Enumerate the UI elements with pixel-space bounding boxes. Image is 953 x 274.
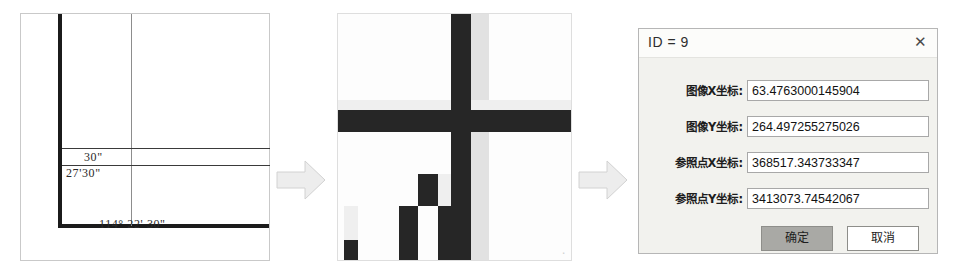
zoom-watermark: ▫	[563, 250, 565, 256]
dialog-body: 图像X坐标: 图像Y坐标: 参照点X坐标: 参照点Y坐标: 确定 取消	[639, 58, 937, 253]
pixel-block-d	[344, 206, 358, 240]
image-y-coordinate-label: 图像Y坐标:	[649, 118, 743, 134]
image-x-coordinate-label: 图像X坐标:	[649, 82, 743, 98]
form-row-reference-x: 参照点X坐标:	[639, 152, 937, 174]
latitude-seconds-label: 30"	[84, 150, 103, 165]
latitude-minutes-seconds-label: 27'30"	[66, 166, 101, 181]
flow-arrow-icon-1	[275, 158, 327, 202]
pixel-block-b-gap	[418, 206, 438, 260]
reference-point-y-coordinate-label: 参照点Y坐标:	[649, 190, 743, 206]
pixel-block-a-shadow	[438, 174, 451, 206]
dialog-title: ID = 9	[648, 34, 689, 50]
ok-button[interactable]: 确定	[761, 226, 833, 251]
reference-point-x-coordinate-input[interactable]	[747, 152, 929, 173]
graticule-line-horizontal-upper	[62, 148, 270, 149]
image-y-coordinate-input[interactable]	[747, 116, 929, 137]
dialog-button-bar: 确定 取消	[639, 226, 937, 252]
pixel-bar-vertical	[451, 14, 471, 260]
flow-arrow-icon-2	[577, 158, 629, 202]
map-neatline-vertical	[58, 14, 62, 228]
form-row-image-y: 图像Y坐标:	[639, 116, 937, 138]
close-icon[interactable]: ✕	[911, 33, 929, 51]
reference-point-y-coordinate-input[interactable]	[747, 188, 929, 209]
pixel-block-e	[344, 240, 358, 260]
pixel-bar-horizontal	[338, 110, 571, 132]
coordinate-entry-dialog: ID = 9 ✕ 图像X坐标: 图像Y坐标: 参照点X坐标: 参照点Y坐标: 确…	[638, 28, 938, 254]
pixel-block-a	[418, 174, 438, 206]
reference-point-x-coordinate-label: 参照点X坐标:	[649, 154, 743, 170]
longitude-label: 114° 22' 30"	[99, 217, 166, 232]
dialog-titlebar[interactable]: ID = 9 ✕	[639, 29, 937, 58]
pixel-column-pale	[471, 14, 489, 260]
map-graticule-drawing: 30" 27'30" 114° 22' 30"	[21, 14, 269, 260]
pixel-block-b	[399, 206, 418, 260]
pixel-block-c	[438, 206, 451, 260]
image-x-coordinate-input[interactable]	[747, 80, 929, 101]
zoomed-pixel-panel: ▫	[337, 13, 572, 261]
form-row-image-x: 图像X坐标:	[639, 80, 937, 102]
cancel-button[interactable]: 取消	[847, 226, 919, 251]
form-row-reference-y: 参照点Y坐标:	[639, 188, 937, 210]
graticule-line-vertical	[131, 14, 132, 226]
map-corner-panel: 30" 27'30" 114° 22' 30"	[20, 13, 270, 261]
